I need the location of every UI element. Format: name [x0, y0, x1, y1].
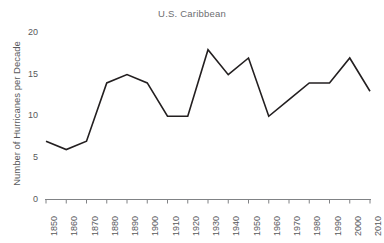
x-axis-tick-marks	[46, 200, 370, 204]
data-series-line	[46, 50, 370, 150]
plot-area	[0, 0, 384, 243]
chart-container: U.S. Caribbean Number of Hurricanes per …	[0, 0, 384, 243]
